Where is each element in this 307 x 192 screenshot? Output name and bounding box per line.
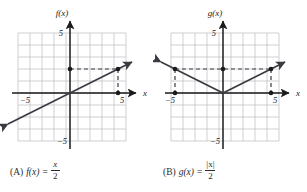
point-b-neg4-2 (173, 67, 178, 72)
tick-b-x-neg5: −5 (165, 95, 175, 105)
caption-b: (B) g(x) = |x| 2 (153, 154, 306, 192)
caption-a: (A) f(x) = x 2 (0, 154, 153, 192)
tick-a-x-pos5: 5 (120, 95, 124, 105)
x-axis-label-a: x (142, 88, 147, 98)
y-axis-label-a: f(x) (56, 8, 69, 18)
tick-a-y-pos5: 5 (59, 28, 63, 38)
caption-a-numerator: x (52, 160, 58, 169)
grid-vertical-b (171, 33, 279, 141)
grid-horizontal-a (18, 33, 126, 141)
caption-b-label: (B) (163, 167, 176, 177)
caption-b-numerator: |x| (205, 160, 215, 169)
point-b-4-2 (269, 67, 274, 72)
graph-a-svg: f(x) x −5 5 5 −5 (0, 0, 153, 155)
point-a-0-2 (68, 67, 73, 72)
panel-b: g(x) x −5 5 5 −5 (B) g(x) = |x| 2 (153, 0, 306, 192)
grid-horizontal-b (171, 33, 279, 141)
tick-a-x-neg5: −5 (20, 95, 30, 105)
plot-b: g(x) x −5 5 5 −5 (153, 0, 306, 155)
caption-a-label: (A) (10, 167, 23, 177)
caption-a-fraction: x 2 (51, 160, 60, 181)
caption-b-function: g(x) (179, 167, 194, 177)
caption-b-fraction: |x| 2 (205, 160, 215, 181)
tick-b-y-neg5: −5 (210, 136, 220, 146)
panel-a: f(x) x −5 5 5 −5 (A) f(x) = x 2 (0, 0, 153, 192)
point-a-4-2 (116, 67, 121, 72)
tick-a-y-neg5: −5 (57, 136, 67, 146)
point-b-0-2 (221, 67, 226, 72)
y-axis-label-b: g(x) (208, 8, 223, 18)
caption-b-denominator: 2 (208, 172, 213, 181)
x-axis-label-b: x (295, 88, 300, 98)
caption-a-denominator: 2 (53, 172, 58, 181)
tick-b-y-pos5: 5 (212, 28, 216, 38)
graph-b-svg: g(x) x −5 5 5 −5 (153, 0, 306, 155)
tick-b-x-pos5: 5 (273, 95, 277, 105)
figure-two-graphs: f(x) x −5 5 5 −5 (A) f(x) = x 2 (0, 0, 307, 192)
caption-a-function: f(x) (26, 167, 39, 177)
caption-b-equals: = (197, 167, 202, 177)
grid-vertical-a (18, 33, 126, 141)
plot-a: f(x) x −5 5 5 −5 (0, 0, 153, 155)
caption-a-equals: = (42, 167, 47, 177)
